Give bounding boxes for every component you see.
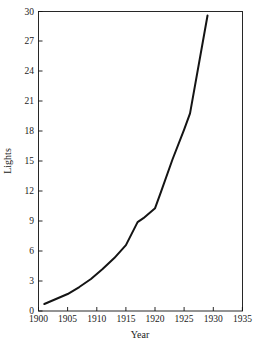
y-tick-label: 3 [29,276,34,286]
y-tick-label: 15 [25,156,35,166]
y-tick-label: 21 [25,96,35,106]
y-tick-label: 24 [25,66,35,76]
y-axis-title: Lights [2,148,13,174]
line-chart: 0 3 6 9 12 15 18 21 24 27 30 1900 1905 [0,0,256,343]
x-tick-label: 1920 [146,314,165,324]
y-tick-label: 27 [25,36,35,46]
x-tick-label: 1915 [116,314,135,324]
x-tick-label: 1905 [58,314,77,324]
y-tick-label: 12 [25,186,35,196]
x-tick-label: 1930 [204,314,223,324]
y-tick-label: 18 [25,126,35,136]
chart-figure: 0 3 6 9 12 15 18 21 24 27 30 1900 1905 [0,0,256,343]
x-axis-title: Year [131,329,150,340]
x-tick-label: 1900 [29,314,48,324]
x-tick-label: 1910 [87,314,106,324]
x-tick-label: 1935 [233,314,252,324]
x-tick-label: 1925 [175,314,194,324]
y-tick-label: 6 [29,246,34,256]
y-tick-label: 9 [29,216,34,226]
y-tick-label: 30 [25,7,35,17]
